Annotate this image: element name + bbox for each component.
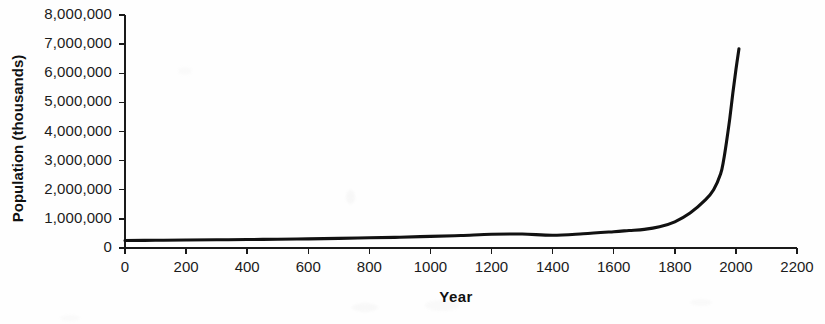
x-tick-label: 1600	[597, 258, 630, 275]
x-axis-title: Year	[406, 288, 506, 305]
y-tick-label: 5,000,000	[44, 92, 112, 109]
x-tick-label: 200	[174, 258, 199, 275]
y-tick-label: 1,000,000	[44, 209, 112, 226]
x-tick-label: 400	[235, 258, 260, 275]
x-tick-label: 1800	[658, 258, 691, 275]
y-tick-label: 2,000,000	[44, 180, 112, 197]
population-curve	[125, 49, 739, 241]
x-tick-label: 0	[121, 258, 129, 275]
x-tick-label: 1000	[414, 258, 447, 275]
x-tick-label: 2000	[719, 258, 752, 275]
chart-screenshot: 01,000,0002,000,0003,000,0004,000,0005,0…	[0, 0, 825, 324]
y-axis	[119, 15, 125, 248]
y-tick-label: 0	[104, 238, 112, 255]
plot-area	[0, 0, 825, 324]
y-tick-label: 6,000,000	[44, 63, 112, 80]
x-tick-label: 2200	[780, 258, 813, 275]
x-tick-label: 600	[296, 258, 321, 275]
x-tick-label: 800	[357, 258, 382, 275]
y-axis-title: Population (thousands)	[9, 44, 26, 234]
y-tick-label: 3,000,000	[44, 151, 112, 168]
x-tick-label: 1400	[536, 258, 569, 275]
y-tick-label: 8,000,000	[44, 5, 112, 22]
x-tick-label: 1200	[475, 258, 508, 275]
y-tick-label: 4,000,000	[44, 122, 112, 139]
y-tick-label: 7,000,000	[44, 34, 112, 51]
x-axis	[125, 248, 797, 254]
